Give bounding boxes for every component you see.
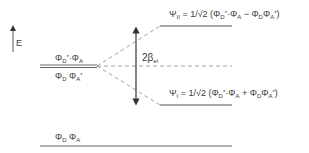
psi-symbol: Ψ <box>169 88 177 98</box>
ground-label: ΦD ΦA <box>55 132 80 145</box>
term3: + Φ <box>240 88 257 98</box>
term2: ·Φ <box>225 88 235 98</box>
term1: (Φ <box>208 9 221 19</box>
term2: ·Φ <box>227 9 237 19</box>
phi-a-sub: A <box>79 58 83 64</box>
degenerate-top-label: ΦD*·ΦA <box>55 52 83 66</box>
close-paren: ) <box>277 9 280 19</box>
equals: = 1/ <box>178 88 196 98</box>
phi-a: Φ <box>67 132 77 142</box>
close-paren: ) <box>275 88 278 98</box>
psi-symbol: Ψ <box>169 9 177 19</box>
phi-a-sup: * <box>80 72 82 78</box>
beta-subscript: el <box>153 58 158 64</box>
phi-a-sub: A <box>76 137 80 143</box>
splitting-label: 2βel <box>142 53 158 66</box>
phi-a: ·Φ <box>69 53 79 63</box>
equals: = 1/ <box>180 9 198 19</box>
energy-axis-label: E <box>16 38 22 48</box>
correlation-line-lower <box>97 66 160 105</box>
phi-a: Φ <box>67 71 77 81</box>
energy-diagram-canvas <box>0 0 309 153</box>
term1: (Φ <box>206 88 219 98</box>
sqrt-two: √2 <box>198 9 208 19</box>
psi-II-label: ΨII = 1/√2 (ΦD*·ΦA − ΦDΦA*) <box>169 8 280 22</box>
term3: − Φ <box>241 9 258 19</box>
degenerate-bottom-label: ΦD ΦA* <box>55 70 83 84</box>
sqrt-two: √2 <box>196 88 206 98</box>
psi-I-label: ΨI = 1/√2 (ΦD*·ΦA + ΦDΦA*) <box>169 87 278 101</box>
